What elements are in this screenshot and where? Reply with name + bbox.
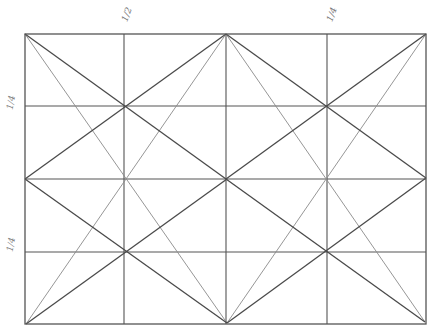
diagram-canvas: 1/2 1/4 1/4 1/4 xyxy=(0,0,440,330)
grid-construction-drawing xyxy=(0,0,440,330)
light-diagonal-line xyxy=(226,34,425,322)
